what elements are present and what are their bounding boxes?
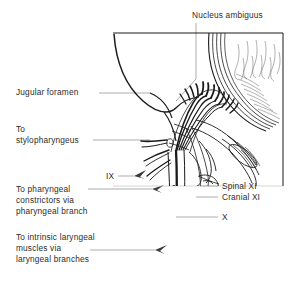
glossopharyngeal-branches	[141, 140, 171, 180]
anatomy-figure: Nucleus ambiguus Jugular foramen To styl…	[0, 0, 289, 289]
nerve-sheath	[167, 90, 227, 152]
label-to-laryngeal-line1: To intrinsic laryngeal	[16, 232, 95, 243]
label-to-pharyngeal-line3: pharyngeal branch	[16, 206, 88, 217]
medulla-column	[209, 33, 279, 131]
label-to-laryngeal-line2: muscles via	[16, 243, 61, 254]
label-nucleus-ambiguus: Nucleus ambiguus	[192, 10, 263, 21]
label-jugular-foramen: Jugular foramen	[16, 87, 78, 98]
nerve-rootlets	[176, 82, 238, 150]
label-to-laryngeal-line3: laryngeal branches	[16, 254, 89, 265]
jugular-foramen-margin	[150, 93, 176, 141]
vagus-trunk	[168, 150, 185, 264]
leader-arrowheads	[134, 170, 167, 254]
label-spinal-xi: Spinal XI	[222, 181, 257, 192]
laryngeal-branches	[164, 212, 178, 261]
label-to-pharyngeal-line2: constrictors via	[16, 195, 74, 206]
label-nerve-x: X	[222, 212, 228, 223]
pharyngeal-branch	[159, 186, 175, 198]
label-cranial-xi: Cranial XI	[222, 192, 260, 203]
label-to-pharyngeal-line1: To pharyngeal	[16, 184, 70, 195]
brainstem-outline	[114, 34, 199, 112]
label-nerve-ix: IX	[106, 171, 114, 182]
leader-lines	[88, 23, 218, 250]
label-to-stylopharyngeus-line2: stylopharyngeus	[16, 135, 79, 146]
tissue-hatching	[235, 40, 280, 119]
label-to-stylopharyngeus-line1: To	[16, 124, 25, 135]
